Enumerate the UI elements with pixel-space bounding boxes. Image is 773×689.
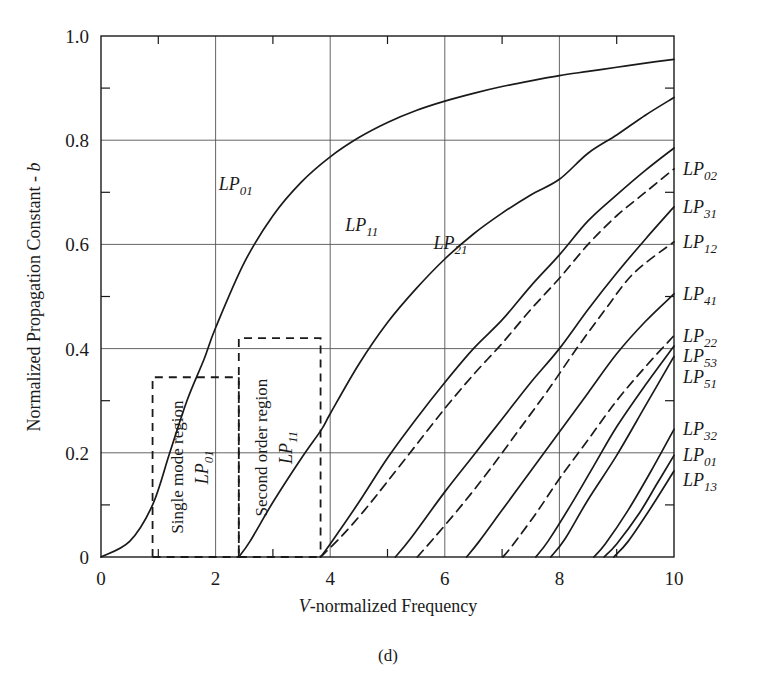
figure-caption: (d): [378, 646, 398, 665]
x-tick-label: 6: [440, 568, 450, 589]
single-mode-region-label: Single mode region: [168, 400, 187, 534]
chart-background: [0, 0, 773, 689]
x-tick-label: 0: [96, 568, 106, 589]
y-tick-label: 1.0: [65, 26, 89, 47]
y-tick-label: 0.8: [65, 130, 89, 151]
x-tick-label: 4: [325, 568, 335, 589]
y-tick-label: 0.6: [65, 234, 89, 255]
x-axis-title: V-normalized Frequency: [299, 596, 477, 616]
y-axis-title: Normalized Propagation Constant - b: [24, 163, 44, 432]
second-order-region-label: Second order region: [252, 378, 271, 516]
figure-panel-d: Single mode regionLP01Second order regio…: [0, 0, 773, 689]
x-tick-label: 2: [211, 568, 221, 589]
y-tick-label: 0.4: [65, 339, 89, 360]
y-tick-label: 0: [80, 547, 90, 568]
x-tick-label: 8: [555, 568, 565, 589]
y-tick-label: 0.2: [65, 443, 89, 464]
x-tick-label: 10: [665, 568, 684, 589]
lp-mode-dispersion-chart: Single mode regionLP01Second order regio…: [0, 0, 773, 689]
